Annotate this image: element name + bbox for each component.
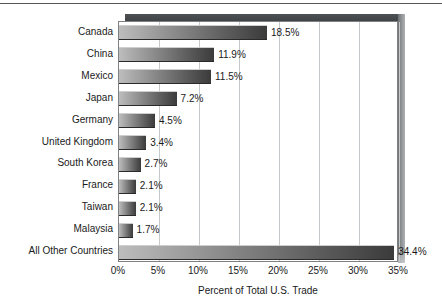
bar-row[interactable]: 3.4% <box>119 135 397 150</box>
category-label: Malaysia <box>0 224 113 234</box>
category-label: Mexico <box>0 71 113 81</box>
bar[interactable] <box>119 113 155 128</box>
category-label: South Korea <box>0 158 113 168</box>
bar[interactable] <box>119 91 177 106</box>
bar[interactable] <box>119 245 394 260</box>
bar-row[interactable]: 11.5% <box>119 69 397 84</box>
bar[interactable] <box>119 223 133 238</box>
x-tick-label: 10% <box>188 266 208 276</box>
category-label: China <box>0 49 113 59</box>
bar-row[interactable]: 11.9% <box>119 47 397 62</box>
x-axis-tick-labels: 0%5%10%15%20%25%30%35% <box>0 266 442 280</box>
bar-row[interactable]: 18.5% <box>119 25 397 40</box>
bar-row[interactable]: 2.1% <box>119 179 397 194</box>
x-tick-label: 5% <box>151 266 165 276</box>
bar-series: 18.5%11.9%11.5%7.2%4.5%3.4%2.7%2.1%2.1%1… <box>119 22 397 261</box>
bar-value-label: 2.1% <box>136 203 163 213</box>
bar-row[interactable]: 34.4% <box>119 245 397 260</box>
bar-value-label: 2.1% <box>136 181 163 191</box>
bar-row[interactable]: 4.5% <box>119 113 397 128</box>
category-label: France <box>0 180 113 190</box>
x-tick-label: 20% <box>268 266 288 276</box>
x-tick-label: 25% <box>308 266 328 276</box>
bar-value-label: 3.4% <box>146 138 173 148</box>
bar[interactable] <box>119 69 211 84</box>
plot-area: 18.5%11.9%11.5%7.2%4.5%3.4%2.7%2.1%2.1%1… <box>118 21 398 262</box>
x-tick-label: 0% <box>111 266 125 276</box>
x-tick-label: 35% <box>388 266 408 276</box>
figure: 18.5%11.9%11.5%7.2%4.5%3.4%2.7%2.1%2.1%1… <box>0 0 442 307</box>
bar-value-label: 34.4% <box>394 247 426 257</box>
bar-row[interactable]: 2.7% <box>119 157 397 172</box>
bar-row[interactable]: 1.7% <box>119 223 397 238</box>
bar-value-label: 1.7% <box>133 225 160 235</box>
bar-row[interactable]: 2.1% <box>119 201 397 216</box>
bar-value-label: 11.5% <box>211 72 243 82</box>
category-label: All Other Countries <box>0 246 113 256</box>
category-label: Canada <box>0 27 113 37</box>
x-tick-label: 15% <box>228 266 248 276</box>
bar-value-label: 4.5% <box>155 116 182 126</box>
category-label: Germany <box>0 115 113 125</box>
category-label: Japan <box>0 93 113 103</box>
bar[interactable] <box>119 157 141 172</box>
gridline <box>399 22 400 261</box>
horizontal-bar-chart: 18.5%11.9%11.5%7.2%4.5%3.4%2.7%2.1%2.1%1… <box>0 0 442 307</box>
x-tick-label: 30% <box>348 266 368 276</box>
bar[interactable] <box>119 47 214 62</box>
bar-value-label: 11.9% <box>214 50 246 60</box>
bar[interactable] <box>119 179 136 194</box>
bar-value-label: 2.7% <box>141 159 168 169</box>
bar-row[interactable]: 7.2% <box>119 91 397 106</box>
bar-value-label: 18.5% <box>267 28 299 38</box>
category-label: United Kingdom <box>0 137 113 147</box>
bar[interactable] <box>119 201 136 216</box>
category-label: Taiwan <box>0 202 113 212</box>
bar-value-label: 7.2% <box>177 94 204 104</box>
category-axis-labels: CanadaChinaMexicoJapanGermanyUnited King… <box>0 21 113 262</box>
bar[interactable] <box>119 25 267 40</box>
bar[interactable] <box>119 135 146 150</box>
x-axis-title: Percent of Total U.S. Trade <box>118 285 398 296</box>
